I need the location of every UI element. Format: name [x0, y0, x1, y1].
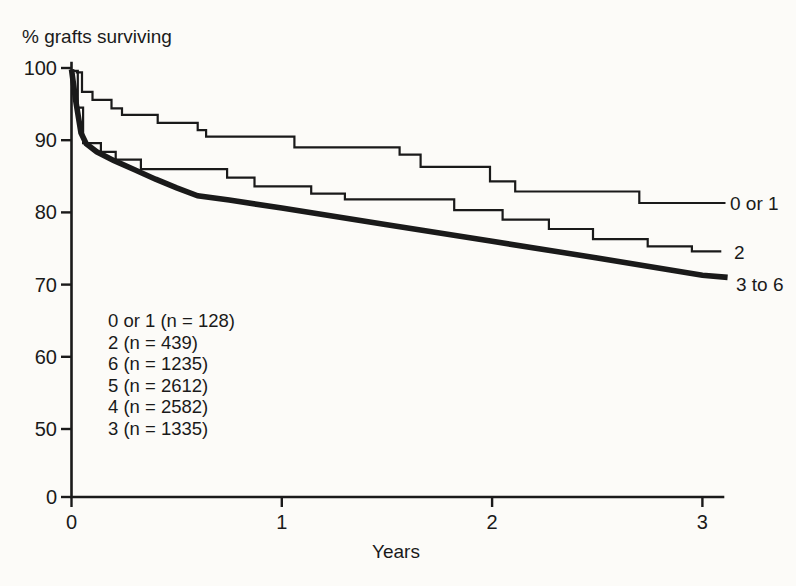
- y-tick-label-50: 50: [35, 418, 57, 440]
- y-tick-label-70: 70: [35, 274, 57, 296]
- x-tick-label-1: 1: [276, 511, 287, 533]
- legend-line-4: 4 (n = 2582): [108, 396, 208, 417]
- x-tick-label-2: 2: [487, 511, 498, 533]
- x-axis-title: Years: [372, 541, 420, 562]
- curves-layer: [72, 69, 728, 277]
- curve-0-or-1: [76, 72, 726, 203]
- x-tick-label-3: 3: [697, 511, 708, 533]
- legend-line-3: 3 (n = 1335): [108, 418, 208, 439]
- curve-3-to-6: [72, 69, 728, 277]
- legend-line-5: 5 (n = 2612): [108, 375, 208, 396]
- legend-block: 0 or 1 (n = 128) 2 (n = 439) 6 (n = 1235…: [108, 310, 235, 439]
- scanned-figure-page: % grafts surviving Years 0 or 1 2 3 to 6…: [0, 0, 796, 586]
- axes-layer: 100908070605000123: [24, 57, 723, 533]
- y-tick-label-90: 90: [35, 129, 57, 151]
- x-tick-label-0: 0: [66, 511, 77, 533]
- y-tick-label-80: 80: [35, 201, 57, 223]
- y-tick-label-100: 100: [24, 57, 57, 79]
- y-tick-label-0: 0: [46, 486, 57, 508]
- legend-line-6: 6 (n = 1235): [108, 353, 208, 374]
- y-tick-label-60: 60: [35, 346, 57, 368]
- graft-survival-chart: % grafts surviving Years 0 or 1 2 3 to 6…: [0, 0, 796, 586]
- chart-title: % grafts surviving: [22, 26, 172, 47]
- legend-line-2: 2 (n = 439): [108, 332, 198, 353]
- curve-label-2: 2: [734, 242, 745, 263]
- legend-line-0-or-1: 0 or 1 (n = 128): [108, 310, 235, 331]
- curve-label-0-or-1: 0 or 1: [730, 193, 779, 214]
- curve-label-3-to-6: 3 to 6: [736, 274, 784, 295]
